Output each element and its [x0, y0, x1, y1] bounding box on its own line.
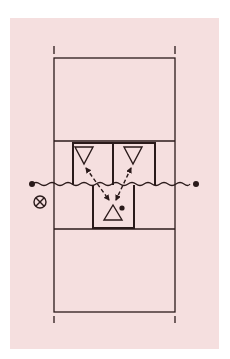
arrow-left — [86, 168, 109, 200]
player-receiver-icon — [104, 205, 122, 220]
players — [75, 147, 142, 220]
net-post-left-icon — [29, 181, 35, 187]
player-front-right-icon — [124, 147, 142, 164]
court-diagram — [0, 0, 230, 359]
shuttle-icon — [119, 205, 124, 210]
circled-x-icon — [34, 196, 46, 208]
net-line — [32, 183, 190, 186]
player-front-left-icon — [75, 147, 93, 164]
net-post-right-icon — [193, 181, 199, 187]
diagram-stage — [0, 0, 230, 359]
